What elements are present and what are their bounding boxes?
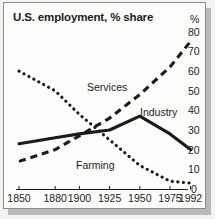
series-label-services: Services (87, 81, 127, 93)
y-tick-80: 80 (188, 26, 200, 38)
y-tick-60: 60 (188, 65, 200, 77)
series-label-farming: Farming (76, 159, 115, 171)
y-tick-10: 10 (188, 163, 200, 175)
plot-area: % 80 70 60 50 40 30 20 10 0 1850 1880 19… (4, 3, 207, 210)
x-axis-ticks (19, 186, 191, 190)
y-tick-40: 40 (188, 104, 200, 116)
series-label-industry: Industry (140, 106, 177, 118)
chart-card: U.S. employment, % share (3, 2, 206, 209)
y-axis-unit: % (190, 13, 199, 25)
chart-figure: U.S. employment, % share (0, 0, 215, 219)
x-tick-1950: 1950 (125, 192, 155, 204)
y-tick-30: 30 (188, 124, 200, 136)
series-industry-line (19, 116, 191, 149)
y-tick-70: 70 (188, 45, 200, 57)
x-tick-1850: 1850 (4, 192, 34, 204)
x-tick-1992: 1992 (176, 192, 206, 204)
y-tick-20: 20 (188, 144, 200, 156)
series-services-line (19, 41, 191, 161)
x-tick-1925: 1925 (95, 192, 125, 204)
x-tick-1900: 1900 (64, 192, 94, 204)
y-tick-50: 50 (188, 85, 200, 97)
